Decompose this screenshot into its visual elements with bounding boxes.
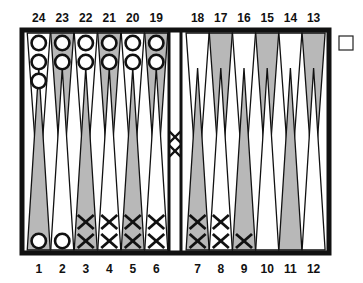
point-label-24: 24 (32, 11, 46, 25)
checker-o[interactable] (32, 234, 46, 248)
checker-o[interactable] (79, 55, 93, 69)
point-label-13: 13 (307, 11, 321, 25)
checker-o[interactable] (149, 36, 163, 50)
checker-o[interactable] (79, 36, 93, 50)
point-label-15: 15 (261, 11, 275, 25)
point-label-4: 4 (106, 262, 113, 276)
checker-o[interactable] (55, 234, 69, 248)
point-label-8: 8 (217, 262, 224, 276)
checker-o[interactable] (32, 36, 46, 50)
point-label-5: 5 (129, 262, 136, 276)
point-label-19: 19 (150, 11, 164, 25)
checker-o[interactable] (126, 55, 140, 69)
point-label-9: 9 (241, 262, 248, 276)
point-label-16: 16 (237, 11, 251, 25)
backgammon-board: 241232223214205196187178169151014111312 (0, 0, 363, 283)
point-label-7: 7 (194, 262, 201, 276)
checker-o[interactable] (55, 55, 69, 69)
point-label-18: 18 (191, 11, 205, 25)
point-label-6: 6 (153, 262, 160, 276)
checker-o[interactable] (32, 55, 46, 69)
checker-o[interactable] (102, 36, 116, 50)
point-label-21: 21 (103, 11, 117, 25)
point-label-2: 2 (59, 262, 66, 276)
point-label-17: 17 (214, 11, 228, 25)
point-label-12: 12 (307, 262, 321, 276)
point-label-11: 11 (284, 262, 297, 276)
checker-o[interactable] (126, 36, 140, 50)
point-label-10: 10 (261, 262, 275, 276)
point-label-3: 3 (82, 262, 89, 276)
point-label-1: 1 (35, 262, 42, 276)
point-label-14: 14 (284, 11, 298, 25)
checker-o[interactable] (32, 74, 46, 88)
point-label-20: 20 (126, 11, 140, 25)
doubling-cube[interactable] (339, 36, 353, 50)
checker-o[interactable] (55, 36, 69, 50)
checker-o[interactable] (102, 55, 116, 69)
point-label-22: 22 (79, 11, 93, 25)
checker-o[interactable] (149, 55, 163, 69)
point-label-23: 23 (56, 11, 70, 25)
